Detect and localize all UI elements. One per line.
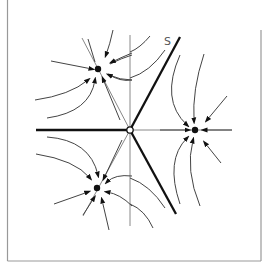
right-node [192,127,198,133]
saddle-point [127,127,133,133]
phase-portrait-diagram: S [0,0,263,265]
separatrix-label: S [164,35,171,48]
nodes [94,66,198,191]
upper-left-node [95,66,101,72]
separatrix-lines [36,37,180,214]
lower-left-node [94,185,100,191]
